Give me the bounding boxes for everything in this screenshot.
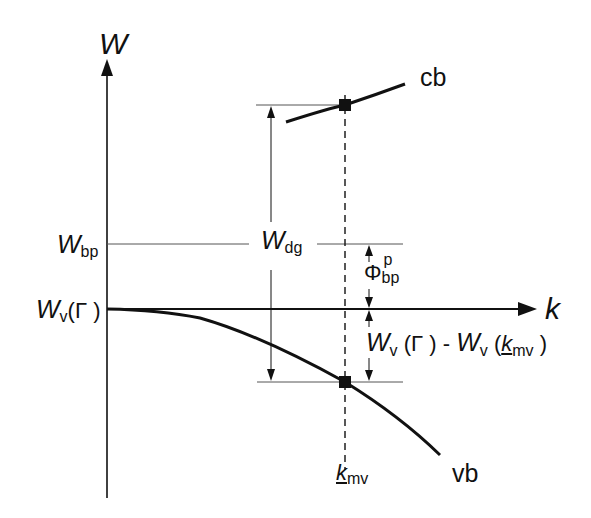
phi-bp-label: Φpbp: [364, 262, 404, 286]
vb-label: vb: [452, 461, 478, 486]
wdg-label: Wdg: [261, 228, 302, 256]
cb-label: cb: [420, 65, 446, 90]
vb-maximum-marker: [339, 376, 351, 388]
wv-difference-label: Wv (Γ ) - Wv (kmv ): [366, 330, 547, 359]
wbp-label: Wbp: [57, 232, 98, 260]
w-axis: [101, 59, 113, 498]
kmv-label: kmv: [336, 462, 368, 487]
wv-gamma-label: Wv(Γ ): [36, 297, 101, 325]
w-axis-arrow-icon: [101, 59, 113, 76]
k-axis-arrow-icon: [518, 302, 537, 316]
cb-minimum-marker: [339, 99, 351, 111]
w-axis-label: W: [99, 29, 127, 59]
k-axis-label: k: [545, 294, 560, 324]
